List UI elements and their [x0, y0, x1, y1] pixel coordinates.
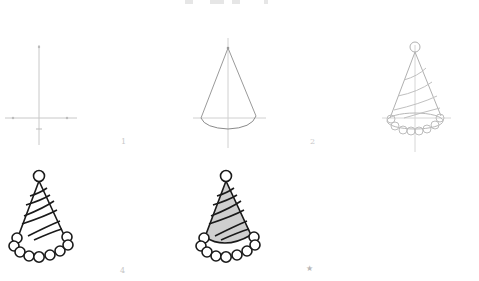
final-colored-hat: [0, 0, 479, 281]
star-icon: ★: [306, 264, 313, 273]
